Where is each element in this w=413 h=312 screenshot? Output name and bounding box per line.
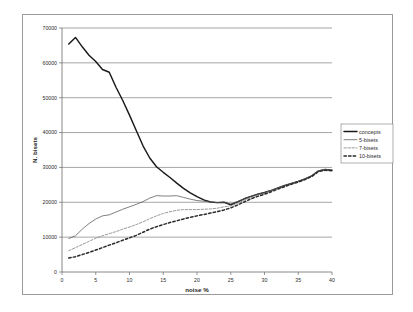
y-tick-label: 30000 <box>43 164 58 170</box>
y-tick-label: 60000 <box>43 60 58 66</box>
gridlines-group <box>62 28 332 237</box>
x-tick-label: 0 <box>61 277 64 283</box>
x-tick-label: 5 <box>94 277 97 283</box>
legend: concepts5-bisets7-bisets10-bisets <box>341 124 393 163</box>
y-tick-labels: 010000200003000040000500006000070000 <box>43 25 62 275</box>
series-line-10-bisets <box>69 170 332 258</box>
x-tick-label: 20 <box>194 277 200 283</box>
x-tick-label: 40 <box>329 277 335 283</box>
y-tick-label: 20000 <box>43 199 58 205</box>
x-tick-label: 15 <box>160 277 166 283</box>
legend-label-7-bisets: 7-bisets <box>359 145 378 151</box>
y-tick-label: 70000 <box>43 25 58 31</box>
series-group <box>69 37 332 258</box>
legend-label-concepts: concepts <box>359 129 381 135</box>
y-tick-label: 50000 <box>43 95 58 101</box>
y-tick-label: 40000 <box>43 129 58 135</box>
y-tick-label: 10000 <box>43 234 58 240</box>
x-tick-label: 30 <box>262 277 268 283</box>
y-tick-label: 0 <box>54 269 57 275</box>
line-chart: 010000200003000040000500006000070000 051… <box>0 0 413 312</box>
x-axis-title: noise % <box>185 286 209 293</box>
chart-figure: 010000200003000040000500006000070000 051… <box>0 0 413 312</box>
series-line-5-bisets <box>69 170 332 239</box>
x-tick-label: 10 <box>127 277 133 283</box>
x-tick-label: 35 <box>295 277 301 283</box>
x-tick-label: 25 <box>228 277 234 283</box>
plot-wrapper: 010000200003000040000500006000070000 051… <box>0 0 413 312</box>
legend-label-5-bisets: 5-bisets <box>359 137 378 143</box>
series-line-7-bisets <box>69 170 332 251</box>
x-tick-labels: 0510152025303540 <box>61 272 335 283</box>
y-axis-title: N. bisets <box>31 137 38 163</box>
legend-label-10-bisets: 10-bisets <box>359 153 381 159</box>
